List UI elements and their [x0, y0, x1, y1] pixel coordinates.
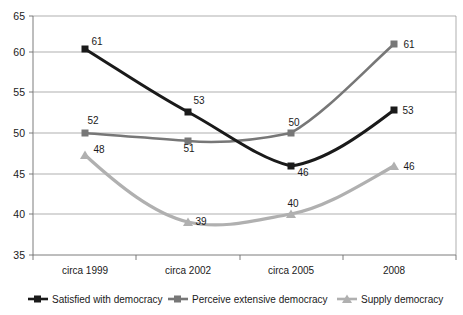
x-tickmarks: [33, 255, 456, 260]
data-label-satisfied-2002: 53: [193, 95, 205, 106]
y-tick-label-65: 65: [13, 10, 25, 22]
x-tick-label-3: 2008: [383, 265, 406, 276]
x-tick-label-2: circa 2005: [268, 265, 315, 276]
data-label-perceive-2005: 50: [288, 117, 300, 128]
marker-satisfied-2002: [185, 109, 192, 116]
series-satisfied-with-democracy: [82, 46, 398, 170]
series-line-perceive-extensive-democracy: [85, 44, 394, 142]
marker-supply-2008: [389, 162, 399, 171]
y-tick-label-55: 55: [13, 86, 25, 98]
x-axis-labels: circa 1999 circa 2002 circa 2005 2008: [62, 265, 406, 276]
marker-satisfied-1999: [82, 46, 89, 53]
y-tick-label-60: 60: [13, 46, 25, 58]
y-tick-label-35: 35: [13, 249, 25, 261]
legend-label-supply-democracy: Supply democracy: [361, 294, 443, 305]
series-perceive-extensive-democracy: [82, 41, 398, 145]
data-label-perceive-1999: 52: [87, 115, 99, 126]
legend-item-perceive-extensive-democracy[interactable]: Perceive extensive democracy: [168, 294, 328, 305]
legend-square-satisfied-icon: [34, 296, 41, 303]
data-label-supply-2002: 39: [195, 216, 207, 227]
data-labels-supply-democracy: 48 39 40 46: [93, 144, 415, 227]
y-tickmarks: [29, 16, 33, 255]
data-labels-satisfied-with-democracy: 61 53 46 53: [91, 36, 414, 178]
marker-satisfied-2008: [391, 107, 398, 114]
data-label-supply-2005: 40: [287, 198, 299, 209]
chart-svg: 65 60 55 50 45 40 35 circa 1999 circa 20…: [0, 0, 463, 315]
data-label-supply-1999: 48: [93, 144, 105, 155]
series-supply-democracy: [80, 151, 399, 227]
marker-satisfied-2005: [288, 163, 295, 170]
legend-label-satisfied-with-democracy: Satisfied with democracy: [52, 294, 163, 305]
data-label-satisfied-2008: 53: [402, 105, 414, 116]
data-label-perceive-2008: 61: [403, 39, 415, 50]
data-label-perceive-2002: 51: [183, 143, 195, 154]
marker-perceive-1999: [82, 130, 89, 137]
y-tick-label-50: 50: [13, 127, 25, 139]
legend-item-satisfied-with-democracy[interactable]: Satisfied with democracy: [28, 294, 163, 305]
data-label-satisfied-2005: 46: [297, 167, 309, 178]
marker-supply-1999: [80, 151, 90, 160]
series-line-satisfied-with-democracy: [85, 49, 394, 166]
x-tick-label-0: circa 1999: [62, 265, 109, 276]
chart-legend: Satisfied with democracy Perceive extens…: [28, 294, 443, 305]
x-tick-label-1: circa 2002: [165, 265, 212, 276]
data-label-supply-2008: 46: [403, 161, 415, 172]
marker-perceive-2008: [391, 41, 398, 48]
series-line-supply-democracy: [85, 155, 394, 225]
line-chart: 65 60 55 50 45 40 35 circa 1999 circa 20…: [0, 0, 463, 315]
y-tick-label-45: 45: [13, 168, 25, 180]
legend-square-perceive-icon: [174, 296, 181, 303]
legend-item-supply-democracy[interactable]: Supply democracy: [337, 294, 443, 305]
y-axis-labels: 65 60 55 50 45 40 35: [13, 10, 25, 261]
data-label-satisfied-1999: 61: [91, 36, 103, 47]
y-tick-label-40: 40: [13, 208, 25, 220]
marker-perceive-2005: [288, 130, 295, 137]
legend-label-perceive-extensive-democracy: Perceive extensive democracy: [192, 294, 328, 305]
